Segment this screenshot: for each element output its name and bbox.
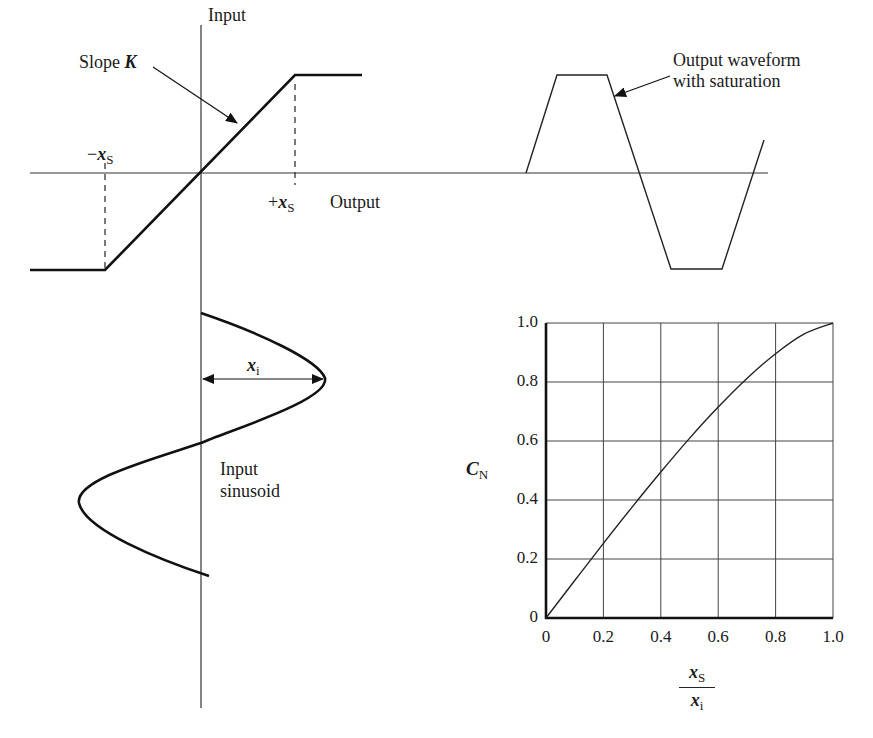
- series-line-c-n: [546, 323, 833, 618]
- denominator-symbol: x: [691, 690, 700, 710]
- neg-threshold-label: −xS: [87, 144, 113, 166]
- slope-pointer-arrow: [153, 67, 237, 123]
- x-tick-label: 0.2: [583, 628, 623, 646]
- denominator-subscript: i: [700, 698, 704, 713]
- y-tick-label: 0.4: [498, 490, 538, 508]
- x-tick-label: 0.4: [641, 628, 681, 646]
- numerator-subscript: S: [698, 670, 705, 685]
- input-sinusoid-label-line2: sinusoid: [220, 481, 280, 501]
- x-tick-label: 0: [526, 628, 566, 646]
- y-axis-label: CN: [466, 459, 488, 481]
- output-waveform-label-line1: Output waveform: [673, 50, 800, 70]
- x-axis-label-denominator: xi: [675, 690, 719, 712]
- numerator-symbol: x: [689, 662, 698, 682]
- neg-sign: −: [87, 144, 97, 164]
- threshold-subscript: S: [106, 152, 113, 167]
- pos-sign: +: [268, 192, 278, 212]
- x-tick-label: 1.0: [813, 628, 853, 646]
- output-waveform: [526, 75, 764, 269]
- amplitude-symbol: x: [247, 355, 256, 375]
- ylabel-subscript: N: [479, 467, 488, 482]
- slope-label: Slope K: [79, 52, 137, 72]
- output-axis-label: Output: [330, 192, 380, 212]
- threshold-symbol: x: [97, 144, 106, 164]
- input-sinusoid-label-line1: Input: [220, 459, 258, 479]
- x-tick-label: 0.6: [698, 628, 738, 646]
- sinusoid-curve: [79, 313, 325, 576]
- slope-label-prefix: Slope: [79, 52, 125, 72]
- y-tick-label: 0: [498, 608, 538, 626]
- amplitude-subscript: i: [256, 363, 260, 378]
- diagram-canvas: [0, 0, 873, 738]
- y-tick-label: 0.2: [498, 549, 538, 567]
- slope-symbol: K: [125, 52, 137, 72]
- output-waveform-label-line2: with saturation: [673, 71, 780, 91]
- x-tick-label: 0.8: [756, 628, 796, 646]
- input-sinusoid: [79, 313, 325, 576]
- fraction-bar: [679, 687, 715, 688]
- input-axis-label: Input: [208, 5, 246, 25]
- clipped-waveform: [526, 75, 764, 269]
- threshold-subscript: S: [287, 200, 294, 215]
- x-axis-label: xS xi: [675, 662, 719, 712]
- y-tick-label: 0.6: [498, 431, 538, 449]
- ylabel-symbol: C: [466, 458, 479, 479]
- amplitude-label: xi: [247, 355, 260, 377]
- pos-threshold-label: +xS: [268, 192, 294, 214]
- threshold-symbol: x: [278, 192, 287, 212]
- x-axis-label-numerator: xS: [675, 662, 719, 684]
- transfer-characteristic: [30, 25, 768, 708]
- waveform-pointer-arrow: [615, 76, 670, 96]
- describing-function-chart: [545, 323, 833, 619]
- y-tick-label: 0.8: [498, 372, 538, 390]
- y-tick-label: 1.0: [498, 313, 538, 331]
